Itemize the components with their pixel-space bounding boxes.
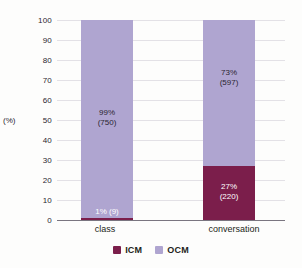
y-tick-0: 0 [18,216,52,225]
legend: ICM OCM [0,245,302,255]
bar-class-segment-icm[interactable] [81,218,133,220]
bar-class-ocm-count: (750) [81,118,133,129]
legend-label-icm: ICM [125,245,142,255]
y-axis-unit-label: (%) [3,116,15,125]
bar-conversation-segment-ocm[interactable]: 73% (597) [203,20,255,166]
bar-class[interactable]: 99% (750) 1% (9) [81,20,133,220]
bar-conversation-ocm-count: (597) [203,78,255,89]
y-tick-40: 40 [18,136,52,145]
bar-conversation-ocm-percent: 73% [203,68,255,79]
y-tick-50: 50 [18,116,52,125]
bar-conversation-segment-icm[interactable]: 27% (220) [203,166,255,220]
y-tick-90: 90 [18,36,52,45]
plot-area: 99% (750) 1% (9) 73% (597) 27% (220) [57,20,285,220]
legend-label-ocm: OCM [167,245,189,255]
legend-swatch-icm [113,246,121,254]
x-label-class: class [57,224,153,234]
bar-conversation-icm-count: (220) [203,192,255,203]
y-axis: 100 90 80 70 60 50 40 30 20 10 0 [12,20,52,220]
gridline-baseline-0 [57,220,285,221]
y-tick-100: 100 [18,16,52,25]
bar-conversation-icm-percent: 27% [203,182,255,193]
bar-conversation[interactable]: 73% (597) 27% (220) [203,20,255,220]
bar-class-ocm-percent: 99% [81,108,133,119]
y-tick-80: 80 [18,56,52,65]
y-tick-10: 10 [18,196,52,205]
stacked-bar-chart: 100 90 80 70 60 50 40 30 20 10 0 (%) 99%… [0,0,302,268]
legend-swatch-ocm [155,246,163,254]
y-tick-70: 70 [18,76,52,85]
legend-item-ocm[interactable]: OCM [155,245,189,255]
x-label-conversation: conversation [176,224,292,234]
y-tick-60: 60 [18,96,52,105]
bar-class-segment-ocm[interactable]: 99% (750) [81,20,133,218]
y-tick-20: 20 [18,176,52,185]
y-tick-30: 30 [18,156,52,165]
legend-item-icm[interactable]: ICM [113,245,142,255]
